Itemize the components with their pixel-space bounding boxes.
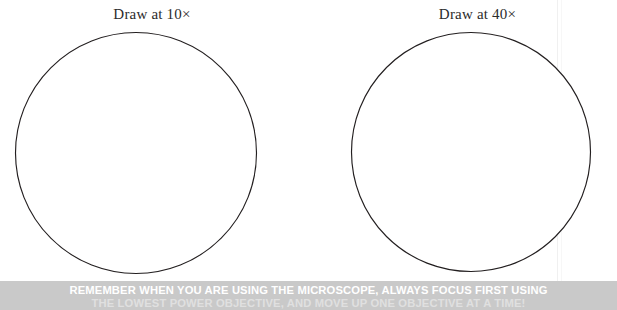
draw-panel-10x: Draw at 10× <box>0 0 300 22</box>
worksheet-page: Draw at 10× Draw at 40× REMEMBER WHEN YO… <box>0 0 617 310</box>
reminder-banner-line-two: THE LOWEST POWER OBJECTIVE, AND MOVE UP … <box>0 297 617 310</box>
draw-circle-10x-wrapper[interactable] <box>14 31 258 275</box>
draw-circle-40x-wrapper[interactable] <box>350 31 592 273</box>
draw-panel-10x-label: Draw at 10× <box>0 0 300 22</box>
draw-panel-40x: Draw at 40× <box>336 0 617 22</box>
draw-panel-40x-label: Draw at 40× <box>336 0 617 22</box>
reminder-banner: REMEMBER WHEN YOU ARE USING THE MICROSCO… <box>0 281 617 310</box>
reminder-banner-line-one: REMEMBER WHEN YOU ARE USING THE MICROSCO… <box>0 284 617 297</box>
draw-circle-40x[interactable] <box>350 31 592 273</box>
draw-circle-10x[interactable] <box>14 31 258 275</box>
